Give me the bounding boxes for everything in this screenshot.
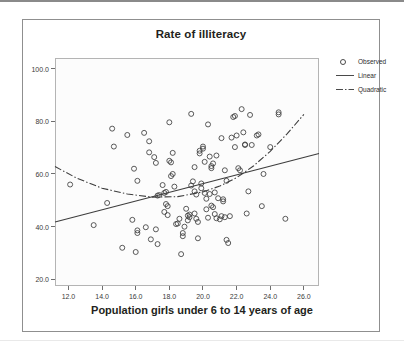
- x-tick-mark: [236, 286, 237, 290]
- data-point-marker: [204, 207, 209, 212]
- data-point-marker: [170, 150, 175, 155]
- data-point-marker: [234, 133, 239, 138]
- data-point-marker: [249, 142, 254, 147]
- data-point-marker: [283, 216, 288, 221]
- data-point-marker: [204, 196, 209, 201]
- data-point-marker: [232, 145, 237, 150]
- data-point-marker: [195, 236, 200, 241]
- data-point-marker: [192, 165, 197, 170]
- x-tick-label: 26.0: [289, 293, 319, 300]
- data-point-marker: [232, 113, 237, 118]
- data-point-marker: [206, 215, 211, 220]
- chart-legend: Observed Linear Quadratic: [335, 56, 397, 98]
- dash-dot-line-icon: [335, 84, 355, 95]
- chart-figure-frame: Rate of illiteracy 20.040.060.080.0100.0…: [22, 19, 380, 332]
- x-tick-label: 24.0: [255, 293, 285, 300]
- x-tick-label: 12.0: [53, 293, 83, 300]
- screenshot-page: Rate of illiteracy 20.040.060.080.0100.0…: [0, 0, 404, 354]
- data-point-marker: [189, 111, 194, 116]
- data-point-marker: [180, 234, 185, 239]
- x-tick-label: 20.0: [188, 293, 218, 300]
- x-tick-label: 22.0: [222, 293, 252, 300]
- x-tick-label: 14.0: [87, 293, 117, 300]
- data-point-marker: [192, 211, 197, 216]
- chart-title: Rate of illiteracy: [23, 28, 379, 40]
- data-point-marker: [229, 135, 234, 140]
- data-point-marker: [153, 227, 158, 232]
- data-point-marker: [143, 225, 148, 230]
- y-tick-mark: [51, 121, 55, 122]
- data-point-marker: [133, 250, 138, 255]
- legend-label-quadratic: Quadratic: [355, 86, 386, 93]
- x-tick-mark: [102, 286, 103, 290]
- data-point-marker: [239, 107, 244, 112]
- plot-wrapper: 20.040.060.080.0100.0 12.014.016.018.020…: [55, 58, 319, 286]
- data-point-marker: [259, 204, 264, 209]
- x-tick-mark: [202, 286, 203, 290]
- y-tick-label: 100.0: [15, 65, 49, 72]
- data-point-marker: [182, 224, 187, 229]
- data-point-marker: [241, 130, 246, 135]
- x-tick-mark: [169, 286, 170, 290]
- data-point-marker: [120, 245, 125, 250]
- data-point-marker: [125, 132, 130, 137]
- data-point-marker: [160, 183, 165, 188]
- data-point-marker: [68, 182, 73, 187]
- data-point-marker: [222, 168, 227, 173]
- data-point-marker: [227, 214, 232, 219]
- x-tick-mark: [270, 286, 271, 290]
- y-tick-label: 80.0: [15, 118, 49, 125]
- y-tick-mark: [51, 279, 55, 280]
- data-point-marker: [130, 217, 135, 222]
- y-tick-mark: [51, 173, 55, 174]
- page-bottom-divider: [0, 340, 404, 341]
- data-point-marker: [142, 130, 147, 135]
- x-tick-label: 18.0: [154, 293, 184, 300]
- y-tick-mark: [51, 226, 55, 227]
- data-point-marker: [222, 215, 227, 220]
- data-point-marker: [147, 150, 152, 155]
- x-tick-mark: [303, 286, 304, 290]
- y-tick-label: 20.0: [15, 276, 49, 283]
- data-point-marker: [212, 190, 217, 195]
- legend-item-linear: Linear: [335, 70, 397, 81]
- legend-label-linear: Linear: [355, 72, 376, 79]
- data-point-marker: [152, 155, 157, 160]
- data-point-marker: [177, 216, 182, 221]
- data-point-marker: [216, 196, 221, 201]
- x-axis-title: Population girls under 6 to 14 years of …: [23, 304, 381, 316]
- quadratic-fit-line: [55, 114, 304, 197]
- data-point-marker: [244, 211, 249, 216]
- data-point-marker: [219, 136, 224, 141]
- legend-item-quadratic: Quadratic: [335, 84, 397, 95]
- data-point-marker: [248, 112, 253, 117]
- data-point-marker: [207, 154, 212, 159]
- x-tick-label: 16.0: [121, 293, 151, 300]
- data-point-marker: [214, 153, 219, 158]
- data-point-marker: [111, 144, 116, 149]
- y-tick-label: 60.0: [15, 170, 49, 177]
- page-top-divider: [0, 0, 404, 2]
- data-point-marker: [179, 252, 184, 257]
- data-point-marker: [256, 132, 261, 137]
- data-point-marker: [155, 242, 160, 247]
- data-point-marker: [202, 159, 207, 164]
- data-point-marker: [135, 178, 140, 183]
- y-tick-label: 40.0: [15, 223, 49, 230]
- circle-marker-icon: [335, 56, 355, 67]
- data-point-marker: [184, 206, 189, 211]
- data-point-marker: [167, 120, 172, 125]
- data-point-marker: [148, 237, 153, 242]
- data-point-marker: [246, 189, 251, 194]
- data-point-marker: [214, 216, 219, 221]
- data-point-marker: [261, 171, 266, 176]
- linear-fit-line: [55, 153, 319, 222]
- data-point-marker: [147, 139, 152, 144]
- legend-item-observed: Observed: [335, 56, 397, 67]
- legend-label-observed: Observed: [355, 58, 386, 65]
- data-point-marker: [165, 213, 170, 218]
- solid-line-icon: [335, 70, 355, 81]
- data-point-marker: [110, 126, 115, 131]
- data-point-marker: [91, 223, 96, 228]
- y-tick-mark: [51, 68, 55, 69]
